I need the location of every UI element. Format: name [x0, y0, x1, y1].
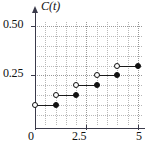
gridline-vertical	[86, 22, 87, 125]
gridline-vertical	[45, 22, 46, 125]
y-tick-050	[31, 26, 36, 27]
x-tick-0	[35, 125, 36, 130]
gridline-horizontal	[35, 75, 142, 76]
y-axis	[35, 12, 36, 129]
data-point-closed-endpoint	[135, 63, 141, 69]
gridline-horizontal	[35, 46, 142, 47]
gridline-vertical	[66, 22, 67, 125]
x-axis	[35, 128, 145, 129]
gridline-vertical	[128, 22, 129, 125]
x-axis-tick-label-25: 2.5	[72, 129, 86, 144]
data-point-closed-endpoint	[53, 102, 59, 108]
gridline-vertical	[107, 22, 108, 125]
data-point-open-endpoint	[114, 63, 120, 69]
gridline-horizontal	[35, 95, 142, 96]
x-axis-tick-label-0: 0	[28, 129, 34, 144]
step-function-chart: 0.50 0.25 0 2.5 5 C(t)	[0, 0, 149, 146]
gridline-vertical	[76, 22, 77, 125]
y-axis-tick-label-050: 0.50	[3, 17, 23, 32]
y-axis-arrow-icon	[32, 6, 38, 13]
gridline-horizontal	[35, 26, 142, 27]
gridline-vertical	[56, 22, 57, 125]
plot-area	[35, 22, 142, 125]
x-axis-tick-label-5: 5	[136, 129, 142, 144]
x-tick-25	[86, 125, 87, 130]
gridline-horizontal	[35, 36, 142, 37]
y-axis-label: C(t)	[41, 0, 60, 14]
gridline-horizontal	[35, 56, 142, 57]
gridline-horizontal	[35, 115, 142, 116]
y-tick-025	[31, 75, 36, 76]
data-point-open-endpoint	[53, 92, 59, 98]
y-axis-tick-label-025: 0.25	[3, 66, 23, 81]
gridline-vertical	[138, 22, 139, 125]
